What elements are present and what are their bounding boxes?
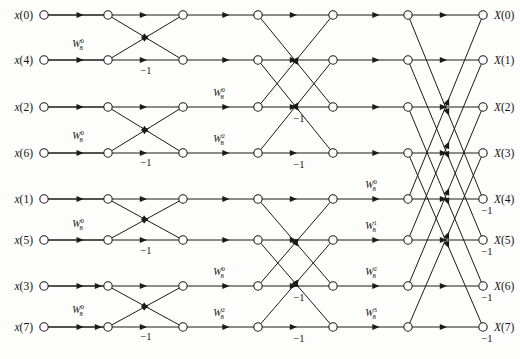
flow-node-c1-r7 (104, 323, 112, 331)
flow-node-c4-r7 (329, 323, 337, 331)
flow-node-c5-r4 (404, 195, 412, 203)
nodes-layer (40, 11, 487, 331)
flow-arrowhead-right (222, 196, 229, 202)
twiddle-exponent: 0 (80, 303, 84, 310)
input-label-1: x(4) (13, 54, 33, 67)
flow-node-c0-r4 (40, 195, 48, 203)
flow-node-c1-r2 (104, 103, 112, 111)
minus-one-label-stage3-0: −1 (481, 205, 492, 216)
input-index: (1) (20, 193, 34, 206)
twiddle-subscript: 8 (372, 313, 376, 320)
output-label-1: X(1) (493, 54, 515, 67)
twiddle-exponent: 3 (373, 306, 377, 313)
twiddle-label-stage1-1: W08 (72, 129, 84, 144)
input-index: (3) (20, 280, 34, 293)
flow-arrowhead-right (140, 150, 147, 156)
flow-arrowhead-right (76, 283, 83, 289)
twiddle-label-stage2-3: W28 (213, 306, 225, 321)
flow-node-c4-r2 (329, 103, 337, 111)
input-label-4: x(1) (13, 193, 33, 206)
output-label-6: X(6) (493, 280, 515, 293)
twiddle-subscript: 8 (79, 44, 83, 51)
flow-node-c6-r6 (479, 282, 487, 290)
flow-node-c6-r0 (479, 11, 487, 19)
flow-arrowhead-right (76, 12, 83, 18)
flow-node-c5-r7 (404, 323, 412, 331)
flow-arrowhead-right (290, 150, 297, 156)
flow-node-c5-r2 (404, 103, 412, 111)
output-index: (2) (501, 101, 515, 114)
flow-arrowhead-right (140, 57, 147, 63)
input-index: (7) (20, 321, 34, 334)
twiddle-subscript: 8 (79, 224, 83, 231)
input-label-5: x(5) (13, 234, 33, 247)
flow-node-c4-r3 (329, 149, 337, 157)
flow-node-c6-r4 (479, 195, 487, 203)
flow-node-c1-r6 (104, 282, 112, 290)
flow-node-c6-r2 (479, 103, 487, 111)
minus-one-label-stage1-0: −1 (140, 65, 151, 76)
flow-node-c0-r6 (40, 282, 48, 290)
output-index: (1) (501, 54, 515, 67)
input-label-2: x(2) (13, 101, 33, 114)
flow-arrowhead-right (372, 237, 379, 243)
flow-node-c4-r6 (329, 282, 337, 290)
flow-node-c3-r0 (254, 11, 262, 19)
output-label-3: X(3) (493, 147, 515, 160)
flow-arrowhead-right (140, 324, 147, 330)
flow-arrowhead-right (372, 324, 379, 330)
input-index: (2) (20, 101, 34, 114)
flow-node-c2-r5 (179, 236, 187, 244)
twiddle-exponent: 0 (221, 86, 225, 93)
flow-arrowhead-right (372, 150, 379, 156)
labels-layer: x(0)x(4)x(2)x(6)x(1)x(5)x(3)x(7)X(0)X(1)… (13, 9, 514, 344)
minus-one-label-stage3-3: −1 (481, 333, 492, 344)
twiddle-subscript: 8 (372, 185, 376, 192)
twiddle-label-stage3-3: W38 (365, 306, 377, 321)
minus-one-label-stage1-1: −1 (140, 157, 151, 168)
flow-node-c0-r1 (40, 56, 48, 64)
flow-arrowhead-right (76, 104, 83, 110)
flow-node-c0-r2 (40, 103, 48, 111)
flow-arrowhead-right (222, 104, 229, 110)
flow-arrowhead-right (76, 324, 83, 330)
flow-arrowhead-right (140, 12, 147, 18)
flow-node-c5-r6 (404, 282, 412, 290)
flow-node-c0-r3 (40, 149, 48, 157)
flow-node-c1-r4 (104, 195, 112, 203)
flow-node-c5-r5 (404, 236, 412, 244)
flow-arrowhead-right (140, 196, 147, 202)
input-index: (5) (20, 234, 34, 247)
flow-node-c6-r1 (479, 56, 487, 64)
flow-arrowhead-right (222, 237, 229, 243)
flow-arrowhead-right (140, 104, 147, 110)
flow-node-c3-r2 (254, 103, 262, 111)
twiddle-exponent: 2 (221, 132, 225, 139)
twiddle-exponent: 0 (373, 178, 377, 185)
flow-node-c2-r3 (179, 149, 187, 157)
twiddle-subscript: 8 (372, 272, 376, 279)
flow-node-c3-r3 (254, 149, 262, 157)
twiddle-exponent: 0 (80, 217, 84, 224)
flow-arrowhead-right (372, 196, 379, 202)
flow-node-c3-r5 (254, 236, 262, 244)
minus-one-label-stage2-2: −1 (293, 292, 304, 303)
flow-arrowhead-right (76, 237, 83, 243)
flow-arrowhead-right (222, 283, 229, 289)
flow-arrowhead-right (76, 150, 83, 156)
twiddle-subscript: 8 (220, 139, 224, 146)
flow-arrowhead-right (372, 57, 379, 63)
flow-node-c1-r0 (104, 11, 112, 19)
flow-arrowhead-right (222, 12, 229, 18)
twiddle-label-stage1-3: W08 (72, 303, 84, 318)
fft-signal-flow-svg: x(0)x(4)x(2)x(6)x(1)x(5)x(3)x(7)X(0)X(1)… (0, 0, 520, 359)
minus-one-label-stage3-1: −1 (481, 246, 492, 257)
input-index: (6) (20, 147, 34, 160)
output-index: (5) (501, 234, 515, 247)
input-label-6: x(3) (13, 280, 33, 293)
input-index: (0) (20, 9, 34, 22)
edges-layer (48, 12, 481, 330)
flow-node-c1-r1 (104, 56, 112, 64)
output-index: (4) (501, 193, 515, 206)
twiddle-exponent: 0 (80, 129, 84, 136)
